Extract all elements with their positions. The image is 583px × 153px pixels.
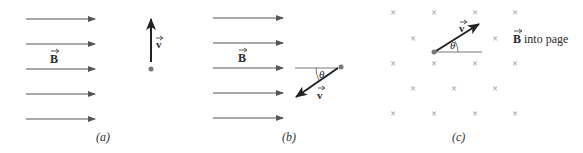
svg-text:×: × <box>431 58 437 69</box>
panel-c: × × × × × × × × × × × × × × × × × θ v <box>390 7 568 119</box>
angle-arc-c <box>455 41 458 52</box>
svg-text:×: × <box>492 33 498 44</box>
svg-text:B: B <box>238 51 246 65</box>
svg-text:×: × <box>472 108 478 119</box>
svg-text:×: × <box>410 33 416 44</box>
svg-text:×: × <box>451 83 457 94</box>
caption-c: (c) <box>452 130 465 145</box>
field-label-c: B into page <box>513 29 568 46</box>
svg-text:v: v <box>156 38 162 50</box>
particle-c <box>432 50 437 55</box>
svg-text:×: × <box>512 7 518 18</box>
velocity-label-a: v <box>156 36 163 50</box>
particle-b <box>339 65 344 70</box>
svg-text:×: × <box>390 108 396 119</box>
particle-a <box>149 67 154 72</box>
field-label-a: B <box>50 49 59 66</box>
caption-a: (a) <box>96 130 110 145</box>
svg-text:B: B <box>50 52 58 66</box>
caption-b: (b) <box>282 130 296 145</box>
svg-text:v: v <box>317 89 323 101</box>
panel-a: B v <box>26 19 163 119</box>
field-lines-a <box>26 19 95 119</box>
svg-text:×: × <box>512 58 518 69</box>
velocity-label-b: v <box>317 86 325 101</box>
panel-b: B θ v <box>213 18 344 118</box>
svg-text:×: × <box>512 108 518 119</box>
svg-text:×: × <box>472 58 478 69</box>
svg-text:×: × <box>410 83 416 94</box>
svg-text:v: v <box>459 22 465 34</box>
svg-text:×: × <box>390 58 396 69</box>
svg-text:×: × <box>390 7 396 18</box>
svg-text:×: × <box>472 7 478 18</box>
svg-text:×: × <box>431 108 437 119</box>
field-lines-b <box>213 18 283 118</box>
svg-text:×: × <box>492 83 498 94</box>
svg-text:×: × <box>431 7 437 18</box>
field-crosses-c: × × × × × × × × × × × × × × × × × <box>390 7 518 119</box>
field-label-b: B <box>238 48 247 65</box>
svg-text:into page: into page <box>524 32 568 46</box>
svg-text:B: B <box>513 32 521 46</box>
